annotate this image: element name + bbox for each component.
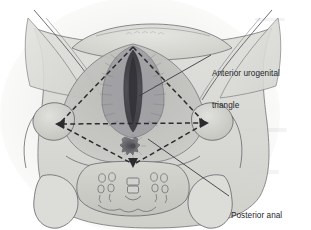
perineum-anatomical-figure: Anterior urogenital triangle Posterior a… <box>0 0 311 230</box>
sacrum <box>77 161 189 216</box>
anterior-label-line1: Anterior urogenital <box>212 69 280 80</box>
ischial-tuberosity-left <box>33 103 75 141</box>
anterior-label-line2: triangle <box>212 101 280 112</box>
anterior-urogenital-triangle-label: Anterior urogenital triangle <box>212 48 280 132</box>
posterior-label-line1: Posterior anal <box>231 211 282 222</box>
interischial-line <box>62 123 202 124</box>
posterior-anal-triangle-label: Posterior anal triangle <box>231 190 282 230</box>
